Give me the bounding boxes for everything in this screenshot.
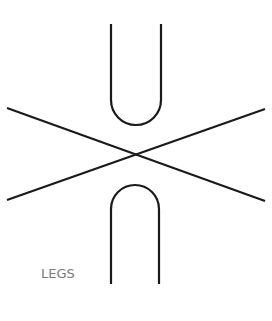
diagram-canvas: LEGS: [0, 0, 272, 321]
legs-label: LEGS: [41, 266, 75, 281]
bottom-inverted-u-shape: [111, 185, 159, 284]
top-u-shape: [111, 24, 161, 125]
